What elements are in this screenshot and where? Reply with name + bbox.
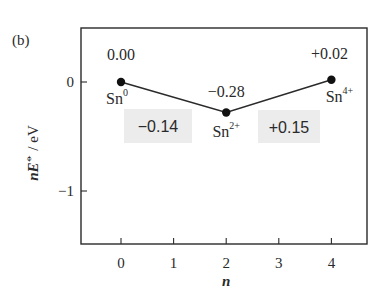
point-value-label: +0.02 (311, 45, 348, 62)
y-tick-label: −1 (58, 183, 74, 199)
data-point (222, 108, 230, 116)
x-tick-label: 3 (275, 255, 283, 271)
slope-value: −0.14 (138, 118, 179, 135)
chart-svg: −0.14+0.15 0.00Sn0−0.28Sn2++0.02Sn4+ 012… (0, 0, 390, 301)
species-label: Sn4+ (326, 85, 354, 105)
data-point (117, 78, 125, 86)
y-axis-label: nE⦵ / eV (23, 125, 41, 181)
panel-label: (b) (12, 32, 30, 49)
y-tick-label: 0 (67, 74, 75, 90)
point-value-label: 0.00 (107, 46, 135, 63)
x-axis-label: n (222, 273, 230, 289)
slope-value: +0.15 (269, 119, 310, 136)
x-tick-label: 2 (222, 255, 230, 271)
species-label: Sn0 (106, 87, 128, 107)
point-value-label: −0.28 (208, 83, 245, 100)
species-label: Sn2+ (212, 120, 240, 140)
axes-labels: 01234n0−1nE⦵ / eV(b) (12, 32, 336, 289)
x-tick-label: 1 (170, 255, 178, 271)
x-tick-label: 0 (117, 255, 125, 271)
x-tick-label: 4 (328, 255, 336, 271)
data-point (327, 76, 335, 84)
